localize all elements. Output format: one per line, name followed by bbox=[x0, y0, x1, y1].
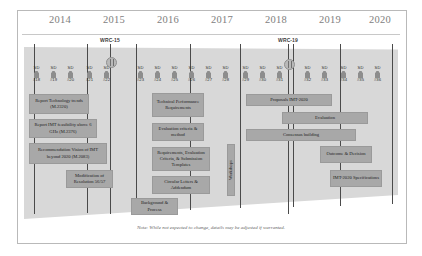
axis-rule bbox=[22, 34, 400, 35]
study-group-meeting-marker: SD#28 bbox=[218, 66, 233, 82]
sd-number: #26 bbox=[184, 78, 199, 82]
wrc-globe-icon bbox=[284, 59, 295, 70]
task-box[interactable]: Background & Process bbox=[131, 198, 178, 215]
sd-title: SD bbox=[201, 66, 216, 70]
study-group-meeting-marker: SD#34 bbox=[336, 66, 351, 82]
sd-number: #24 bbox=[150, 78, 165, 82]
sd-title: SD bbox=[150, 66, 165, 70]
sd-title: SD bbox=[370, 66, 385, 70]
study-group-meeting-marker: SD#18 bbox=[29, 66, 44, 82]
task-box[interactable]: Evaluation criteria & method bbox=[152, 123, 204, 141]
study-group-meeting-marker: SD#27 bbox=[201, 66, 216, 82]
task-box[interactable]: Consensus building bbox=[246, 129, 356, 141]
wrc-conference-label: WRC-19 bbox=[265, 37, 311, 43]
study-group-meeting-marker: SD#30 bbox=[255, 66, 270, 82]
task-box[interactable]: Outcome & Decision bbox=[320, 146, 372, 163]
year-label: 2019 bbox=[307, 14, 353, 25]
sd-title: SD bbox=[255, 66, 270, 70]
sd-number: #28 bbox=[218, 78, 233, 82]
sd-title: SD bbox=[353, 66, 368, 70]
task-box[interactable]: Circular Letters & Addendum bbox=[152, 176, 210, 194]
sd-number: #31 bbox=[272, 78, 287, 82]
year-divider-line bbox=[392, 44, 393, 204]
study-group-meeting-marker: SD#19 bbox=[46, 66, 61, 82]
year-label: 2016 bbox=[145, 14, 191, 25]
task-box[interactable]: Technical Performance Requirements bbox=[152, 93, 204, 117]
wrc-globe-icon bbox=[106, 57, 117, 68]
year-label: 2014 bbox=[37, 14, 83, 25]
study-group-meeting-marker: SD#20 bbox=[63, 66, 78, 82]
sd-title: SD bbox=[300, 66, 315, 70]
sd-number: #32 bbox=[300, 78, 315, 82]
study-group-meeting-marker: SD#35 bbox=[353, 66, 368, 82]
sd-number: #33 bbox=[317, 78, 332, 82]
task-box[interactable]: Proposals IMT-2020 bbox=[246, 94, 332, 106]
sd-title: SD bbox=[317, 66, 332, 70]
study-group-meeting-marker: SD#22 bbox=[99, 66, 114, 82]
task-box[interactable]: Modification of Resolution 56/57 bbox=[66, 170, 113, 188]
wrc-conference-label: WRC-15 bbox=[87, 37, 133, 43]
sd-number: #25 bbox=[167, 78, 182, 82]
sd-title: SD bbox=[46, 66, 61, 70]
year-label: 2017 bbox=[199, 14, 245, 25]
sd-number: #23 bbox=[133, 78, 148, 82]
sd-number: #22 bbox=[99, 78, 114, 82]
sd-number: #29 bbox=[238, 78, 253, 82]
year-label: 2015 bbox=[91, 14, 137, 25]
sd-number: #30 bbox=[255, 78, 270, 82]
sd-title: SD bbox=[29, 66, 44, 70]
sd-number: #27 bbox=[201, 78, 216, 82]
task-box[interactable]: Report IMT feasibility above 6 GHz (M.23… bbox=[29, 119, 97, 138]
sd-title: SD bbox=[238, 66, 253, 70]
task-box[interactable]: Report Technology trends (M.2320) bbox=[29, 94, 89, 114]
sd-number: #34 bbox=[336, 78, 351, 82]
sd-title: SD bbox=[167, 66, 182, 70]
footnote: Note: While not expected to change, deta… bbox=[24, 225, 398, 230]
roadmap-diagram: 2014201520162017201820192020 WRC-15WRC-1… bbox=[0, 0, 422, 256]
task-box[interactable]: IMT-2020 Specifications bbox=[330, 170, 382, 187]
study-group-meeting-marker: SD#21 bbox=[82, 66, 97, 82]
sd-title: SD bbox=[184, 66, 199, 70]
study-group-meeting-marker: SD#26 bbox=[184, 66, 199, 82]
study-group-meeting-marker: SD#33 bbox=[317, 66, 332, 82]
sd-title: SD bbox=[133, 66, 148, 70]
study-group-meeting-marker: SD#29 bbox=[238, 66, 253, 82]
sd-title: SD bbox=[82, 66, 97, 70]
task-box[interactable]: Recommendation Vision of IMT beyond 2020… bbox=[29, 143, 107, 164]
sd-number: #20 bbox=[63, 78, 78, 82]
task-box-vertical[interactable]: Workshops bbox=[227, 144, 235, 196]
year-label: 2018 bbox=[253, 14, 299, 25]
study-group-meeting-marker: SD#23 bbox=[133, 66, 148, 82]
sd-number: #19 bbox=[46, 78, 61, 82]
sd-title: SD bbox=[336, 66, 351, 70]
sd-number: #35 bbox=[353, 78, 368, 82]
sd-title: SD bbox=[218, 66, 233, 70]
task-box[interactable]: Requirements, Evaluation Criteria, & Sub… bbox=[152, 147, 210, 171]
task-box[interactable]: Evaluation bbox=[282, 112, 368, 124]
sd-number: #18 bbox=[29, 78, 44, 82]
sd-number: #21 bbox=[82, 78, 97, 82]
year-label: 2020 bbox=[357, 14, 403, 25]
study-group-meeting-marker: SD#32 bbox=[300, 66, 315, 82]
sd-title: SD bbox=[63, 66, 78, 70]
study-group-meeting-marker: SD#24 bbox=[150, 66, 165, 82]
study-group-meeting-marker: SD#25 bbox=[167, 66, 182, 82]
year-axis: 2014201520162017201820192020 bbox=[18, 12, 404, 36]
sd-number: #36 bbox=[370, 78, 385, 82]
study-group-meeting-marker: SD#36 bbox=[370, 66, 385, 82]
